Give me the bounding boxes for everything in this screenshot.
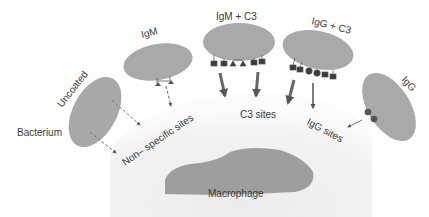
label-bacterium: Bacterium: [17, 127, 62, 138]
bacterium-igm: [120, 38, 195, 86]
label-macrophage: Macrophage: [208, 188, 264, 199]
label-igm-c3: IgM + C3: [216, 11, 257, 22]
label-c3-sites: C3 sites: [240, 109, 276, 120]
opsonization-diagram: Uncoated IgM IgM + C3 IgG + C3 IgG Bacte…: [0, 0, 429, 217]
label-igm: IgM: [140, 25, 159, 40]
